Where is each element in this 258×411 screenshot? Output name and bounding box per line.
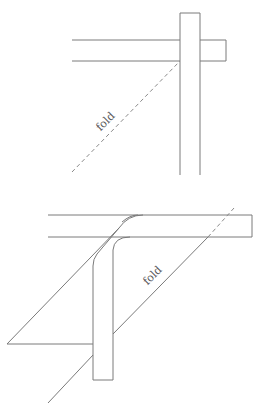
fold-line-upper	[113, 237, 208, 334]
fold-line-lower	[48, 355, 93, 403]
fold-diagram: fold fold	[0, 0, 258, 411]
fold-line-dashed-end	[208, 208, 234, 237]
diagram-svg: fold fold	[0, 0, 258, 411]
fold-label-bottom: fold	[140, 263, 164, 287]
fold-line-dashed	[72, 61, 180, 172]
bottom-diagram: fold	[7, 208, 252, 403]
top-diagram: fold	[72, 13, 226, 175]
fold-label-top: fold	[93, 109, 117, 133]
